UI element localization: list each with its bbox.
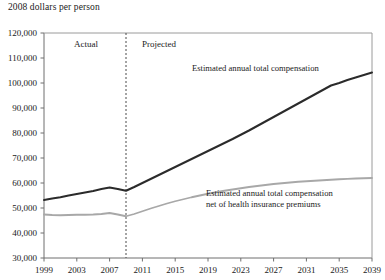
y-axis-tick-label: 70,000	[12, 153, 37, 163]
chart-container: 2008 dollars per person 120,000110,00010…	[0, 0, 385, 280]
y-axis-tick-label: 120,000	[8, 28, 38, 38]
y-axis-tick-label: 90,000	[12, 103, 37, 113]
chart-plot-area: 120,000110,000100,00090,00080,00070,0006…	[0, 0, 385, 280]
x-axis-tick-label: 2011	[134, 265, 152, 275]
x-axis-tick-label: 2027	[265, 265, 284, 275]
x-axis-tick-label: 2031	[297, 265, 315, 275]
x-axis-tick-label: 2019	[199, 265, 218, 275]
series-annotation-label: Estimated annual total compensation	[192, 63, 319, 73]
x-axis-tick-label: 2015	[166, 265, 185, 275]
actual-region-label: Actual	[74, 39, 98, 49]
x-axis-tick-label: 2023	[232, 265, 251, 275]
y-axis-ticks: 120,000110,000100,00090,00080,00070,0006…	[8, 28, 44, 263]
x-axis-tick-label: 2035	[330, 265, 349, 275]
y-axis-tick-label: 110,000	[8, 53, 37, 63]
region-labels: ActualProjected	[74, 39, 176, 49]
projected-region-label: Projected	[142, 39, 176, 49]
y-axis-tick-label: 100,000	[8, 78, 38, 88]
x-axis-tick-label: 2007	[101, 265, 120, 275]
y-axis-tick-label: 80,000	[12, 128, 37, 138]
y-axis-tick-label: 60,000	[12, 178, 37, 188]
series-annotation-label: Estimated annual total compensation	[206, 188, 333, 198]
x-axis-tick-label: 1999	[35, 265, 54, 275]
series-annotations: Estimated annual total compensationEstim…	[192, 63, 333, 209]
x-axis-tick-label: 2003	[68, 265, 87, 275]
y-axis-tick-label: 30,000	[12, 253, 37, 263]
series-annotation-label: net of health insurance premiums	[206, 199, 321, 209]
x-axis-ticks: 1999200320072011201520192023202720312035…	[35, 258, 382, 275]
y-axis-tick-label: 50,000	[12, 203, 37, 213]
y-axis-tick-label: 40,000	[12, 228, 37, 238]
x-axis-tick-label: 2039	[363, 265, 382, 275]
